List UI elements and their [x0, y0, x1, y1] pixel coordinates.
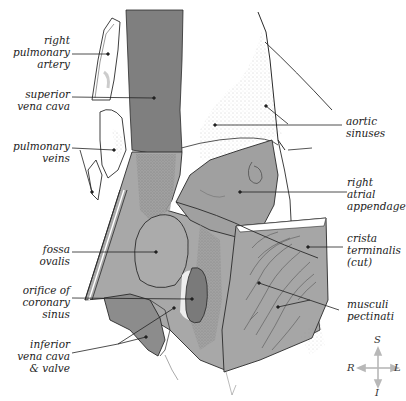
orientation-compass	[358, 348, 398, 387]
compass-superior: S	[374, 334, 381, 345]
label-fossa-ovalis: fossa ovalis	[8, 243, 70, 267]
label-musculi-pectinati: musculi pectinati	[347, 298, 403, 322]
label-inferior-vena-cava-valve: inferior vena cava & valve	[4, 338, 70, 374]
label-superior-vena-cava: superior vena cava	[8, 88, 70, 112]
label-pulmonary-veins: pulmonary veins	[8, 140, 70, 164]
label-right-pulmonary-artery: right pulmonary artery	[8, 34, 70, 70]
compass-inferior: I	[375, 387, 379, 398]
pulmonary-veins-shape	[88, 110, 126, 200]
anterior-wall-flap	[222, 218, 328, 395]
label-right-atrial-appendage: right atrial appendage	[347, 176, 403, 212]
label-orifice-of-coronary-sinus: orifice of coronary sinus	[4, 284, 70, 320]
compass-right: R	[347, 362, 355, 373]
label-crista-terminalis: crista terminalis (cut)	[347, 232, 403, 268]
right-pulmonary-artery-shape	[92, 18, 120, 100]
compass-left: L	[394, 362, 401, 373]
coronary-sinus-orifice-shape	[180, 268, 207, 323]
superior-vena-cava-shape	[126, 10, 183, 155]
label-aortic-sinuses: aortic sinuses	[346, 115, 402, 139]
fossa-ovalis-shape	[135, 215, 189, 288]
